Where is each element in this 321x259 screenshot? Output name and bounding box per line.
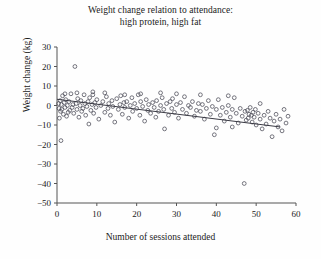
- data-point: [258, 102, 262, 106]
- data-point: [104, 95, 108, 99]
- data-point: [262, 113, 266, 117]
- axes-group: [57, 47, 296, 203]
- data-point: [248, 106, 252, 110]
- data-point: [234, 111, 238, 115]
- x-tick-label: 10: [92, 209, 102, 219]
- data-point: [220, 106, 224, 110]
- y-tick-label: 30: [42, 42, 52, 52]
- data-point: [154, 115, 158, 119]
- data-point: [103, 91, 107, 95]
- y-tick-label: −30: [37, 159, 52, 169]
- data-point: [226, 104, 230, 108]
- data-point: [75, 91, 79, 95]
- data-point: [123, 93, 127, 97]
- data-point: [208, 112, 212, 116]
- y-tick-label: 10: [42, 81, 52, 91]
- data-points-group: [57, 65, 290, 186]
- data-point: [120, 112, 124, 116]
- y-tick-label: 0: [47, 101, 52, 111]
- data-point: [242, 182, 246, 186]
- data-point: [278, 117, 282, 121]
- data-point: [139, 92, 143, 96]
- x-tick-label: 30: [172, 209, 182, 219]
- data-point: [171, 97, 175, 101]
- data-point: [230, 125, 234, 129]
- data-point: [175, 92, 179, 96]
- y-tick-label: −50: [37, 198, 52, 208]
- data-point: [183, 95, 187, 99]
- data-point: [87, 122, 91, 126]
- data-point: [108, 113, 112, 117]
- data-point: [72, 111, 76, 115]
- data-point: [119, 94, 123, 98]
- data-point: [159, 104, 163, 108]
- data-point: [204, 107, 208, 111]
- data-point: [152, 106, 156, 110]
- data-point: [147, 103, 151, 107]
- data-point: [84, 113, 88, 117]
- data-point: [212, 133, 216, 137]
- data-point: [199, 109, 203, 113]
- data-point: [65, 114, 69, 118]
- data-point: [85, 105, 89, 109]
- data-point: [224, 110, 228, 114]
- data-point: [97, 117, 101, 121]
- data-point: [138, 113, 142, 117]
- data-point: [131, 109, 135, 113]
- x-tick-label: 40: [212, 209, 222, 219]
- data-point: [260, 127, 264, 131]
- data-point: [280, 129, 284, 133]
- data-point: [95, 98, 99, 102]
- y-tick-label: −20: [37, 140, 52, 150]
- data-point: [286, 114, 290, 118]
- data-point: [270, 135, 274, 139]
- data-point: [210, 105, 214, 109]
- data-point: [151, 101, 155, 105]
- y-tick-group: 3020100−10−20−30−40−50: [37, 42, 57, 208]
- data-point: [163, 127, 167, 131]
- data-point: [232, 96, 236, 100]
- data-point: [247, 112, 251, 116]
- data-point: [160, 96, 164, 100]
- data-point: [197, 102, 201, 106]
- data-point: [136, 93, 140, 97]
- y-tick-label: 20: [42, 62, 52, 72]
- data-point: [73, 65, 77, 69]
- data-point: [59, 139, 63, 143]
- x-tick-label: 60: [292, 209, 302, 219]
- data-point: [214, 126, 218, 130]
- data-point: [274, 112, 278, 116]
- x-tick-label: 20: [132, 209, 142, 219]
- data-point: [230, 108, 234, 112]
- data-point: [268, 116, 272, 120]
- data-point: [272, 119, 276, 123]
- data-point: [115, 97, 119, 101]
- data-point: [82, 93, 86, 97]
- data-point: [94, 106, 98, 110]
- x-tick-label: 0: [55, 209, 60, 219]
- x-tick-label: 50: [252, 209, 262, 219]
- data-point: [185, 111, 189, 115]
- y-tick-label: −10: [37, 120, 52, 130]
- data-point: [200, 103, 204, 107]
- data-point: [101, 100, 105, 104]
- data-point: [57, 116, 61, 120]
- data-point: [77, 115, 81, 119]
- data-point: [266, 109, 270, 113]
- data-point: [181, 108, 185, 112]
- data-point: [110, 99, 114, 103]
- data-point: [179, 101, 183, 105]
- data-point: [165, 102, 169, 106]
- data-point: [238, 107, 242, 111]
- data-point: [284, 121, 288, 125]
- data-point: [116, 108, 120, 112]
- data-point: [206, 99, 210, 103]
- data-point: [216, 98, 220, 102]
- data-point: [252, 115, 256, 119]
- data-point: [143, 119, 147, 123]
- data-point: [118, 103, 122, 107]
- data-point: [218, 113, 222, 117]
- data-point: [177, 116, 181, 120]
- chart-figure: Weight change relation to attendance: hi…: [0, 0, 321, 259]
- x-tick-group: 0102030405060: [55, 203, 301, 219]
